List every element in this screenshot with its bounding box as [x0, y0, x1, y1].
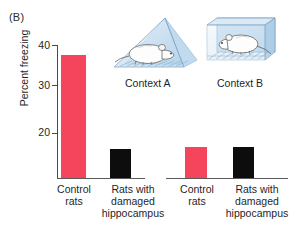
context-a-label: Context A [125, 77, 171, 89]
context-b-label: Context B [217, 77, 263, 89]
figure-panel-b: (B) Percent freezing 40 30 20 [0, 0, 297, 227]
x-axis-line-context-a [57, 178, 145, 179]
x-label-context-b-control: Control rats [167, 183, 227, 207]
bar-context-a-control-rats[interactable] [61, 55, 86, 178]
x-label-context-a-control: Control rats [44, 183, 104, 207]
context-b-cage-illustration [203, 12, 283, 74]
x-label-context-b-lesion: Rats with damaged hippocampus [221, 183, 293, 220]
context-a-cage-illustration [112, 12, 200, 74]
bar-context-a-lesioned-rats[interactable] [110, 149, 131, 177]
bar-context-b-control-rats[interactable] [185, 147, 207, 178]
bar-context-b-lesioned-rats[interactable] [233, 147, 254, 178]
x-axis-line-context-b [166, 178, 288, 179]
x-label-context-a-lesion: Rats with damaged hippocampus [97, 183, 169, 220]
